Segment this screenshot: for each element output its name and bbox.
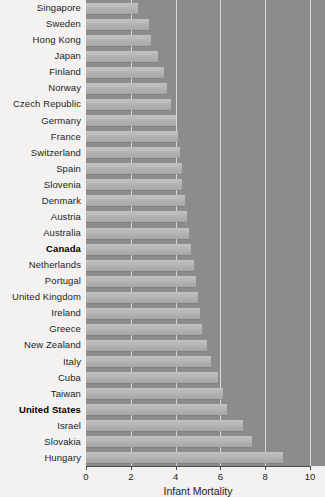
bar bbox=[86, 260, 194, 271]
bar bbox=[86, 147, 180, 158]
category-label: Taiwan bbox=[0, 389, 81, 399]
tick-mark-2 bbox=[131, 466, 132, 470]
tick-mark-6 bbox=[220, 466, 221, 470]
bar bbox=[86, 51, 158, 62]
bar bbox=[86, 67, 164, 78]
bar bbox=[86, 179, 182, 190]
x-axis-title: Infant Mortality bbox=[86, 485, 310, 497]
category-label: United Kingdom bbox=[0, 292, 81, 302]
category-label: United States bbox=[0, 405, 81, 415]
category-label: Japan bbox=[0, 51, 81, 61]
bar bbox=[86, 324, 202, 335]
category-label: France bbox=[0, 132, 81, 142]
plot-area bbox=[86, 0, 325, 466]
bar bbox=[86, 404, 227, 415]
tick-label-2: 2 bbox=[116, 471, 146, 482]
bar bbox=[86, 308, 200, 319]
bar bbox=[86, 420, 243, 431]
bar bbox=[86, 244, 191, 255]
category-label: Portugal bbox=[0, 276, 81, 286]
bar bbox=[86, 131, 178, 142]
category-label: Netherlands bbox=[0, 260, 81, 270]
category-label: Finland bbox=[0, 67, 81, 77]
bar bbox=[86, 276, 196, 287]
tick-label-6: 6 bbox=[205, 471, 235, 482]
x-axis-line bbox=[86, 466, 310, 467]
category-label: Austria bbox=[0, 212, 81, 222]
bar bbox=[86, 388, 223, 399]
category-label: Hungary bbox=[0, 453, 81, 463]
category-label: Switzerland bbox=[0, 148, 81, 158]
category-label: Australia bbox=[0, 228, 81, 238]
bar bbox=[86, 83, 167, 94]
category-label: Singapore bbox=[0, 3, 81, 13]
category-label: Germany bbox=[0, 116, 81, 126]
bar bbox=[86, 3, 138, 14]
tick-label-10: 10 bbox=[295, 471, 325, 482]
infant-mortality-bar-chart: SingaporeSwedenHong KongJapanFinlandNorw… bbox=[0, 0, 325, 497]
tick-label-0: 0 bbox=[71, 471, 101, 482]
bar bbox=[86, 292, 198, 303]
bar bbox=[86, 356, 211, 367]
category-label: Hong Kong bbox=[0, 35, 81, 45]
bar bbox=[86, 195, 185, 206]
bar bbox=[86, 115, 176, 126]
category-label: Italy bbox=[0, 357, 81, 367]
bar bbox=[86, 19, 149, 30]
tick-label-4: 4 bbox=[161, 471, 191, 482]
category-label: Canada bbox=[0, 244, 81, 254]
gridline-10 bbox=[310, 0, 311, 466]
category-label: Sweden bbox=[0, 19, 81, 29]
category-label: Ireland bbox=[0, 308, 81, 318]
category-label: Greece bbox=[0, 324, 81, 334]
bar bbox=[86, 99, 171, 110]
bar bbox=[86, 452, 283, 463]
category-label: New Zealand bbox=[0, 340, 81, 350]
category-label: Czech Republic bbox=[0, 99, 81, 109]
tick-mark-8 bbox=[265, 466, 266, 470]
bar bbox=[86, 436, 252, 447]
gridline-8 bbox=[265, 0, 266, 466]
tick-mark-10 bbox=[310, 466, 311, 470]
tick-label-8: 8 bbox=[250, 471, 280, 482]
category-label: Slovakia bbox=[0, 437, 81, 447]
tick-mark-0 bbox=[86, 466, 87, 470]
bar bbox=[86, 228, 189, 239]
bar bbox=[86, 35, 151, 46]
bar bbox=[86, 340, 207, 351]
bar bbox=[86, 211, 187, 222]
bar bbox=[86, 372, 218, 383]
tick-mark-4 bbox=[176, 466, 177, 470]
category-label: Norway bbox=[0, 83, 81, 93]
bar bbox=[86, 163, 182, 174]
category-label: Spain bbox=[0, 164, 81, 174]
category-label: Cuba bbox=[0, 373, 81, 383]
category-label: Israel bbox=[0, 421, 81, 431]
category-label: Slovenia bbox=[0, 180, 81, 190]
category-label-column: SingaporeSwedenHong KongJapanFinlandNorw… bbox=[0, 0, 86, 466]
category-label: Denmark bbox=[0, 196, 81, 206]
